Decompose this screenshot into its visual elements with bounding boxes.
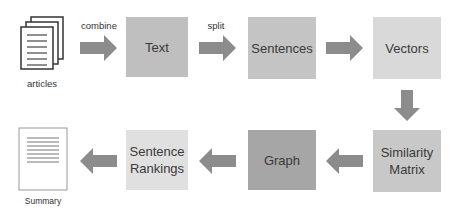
summary-label: Summary — [14, 196, 72, 206]
node-vectors: Vectors — [373, 17, 441, 79]
node-vectors-label: Vectors — [385, 40, 428, 57]
node-sentence-rankings: Sentence Rankings — [126, 130, 188, 190]
node-sentences-label: Sentences — [251, 40, 312, 57]
summary-document-icon — [18, 127, 68, 191]
arrow-left-icon — [199, 148, 237, 174]
arrow-right-icon — [199, 35, 237, 61]
node-graph-label: Graph — [264, 152, 300, 169]
arrow-right-icon — [326, 35, 364, 61]
node-rankings-label-2: Rankings — [130, 160, 184, 177]
node-text-label: Text — [145, 39, 169, 56]
articles-icon — [18, 14, 70, 70]
combine-label: combine — [74, 20, 124, 31]
arrow-right-icon — [80, 35, 118, 61]
node-similarity-label-2: Matrix — [389, 161, 424, 178]
split-label: split — [196, 20, 236, 31]
arrow-down-icon — [394, 90, 420, 122]
articles-label: articles — [20, 78, 64, 89]
node-text: Text — [126, 17, 188, 77]
node-similarity-label-1: Similarity — [381, 144, 434, 161]
node-graph: Graph — [248, 130, 316, 190]
arrow-left-icon — [80, 148, 118, 174]
node-rankings-label-1: Sentence — [130, 143, 185, 160]
node-similarity-matrix: Similarity Matrix — [373, 130, 441, 192]
arrow-left-icon — [326, 148, 364, 174]
node-sentences: Sentences — [248, 17, 316, 79]
